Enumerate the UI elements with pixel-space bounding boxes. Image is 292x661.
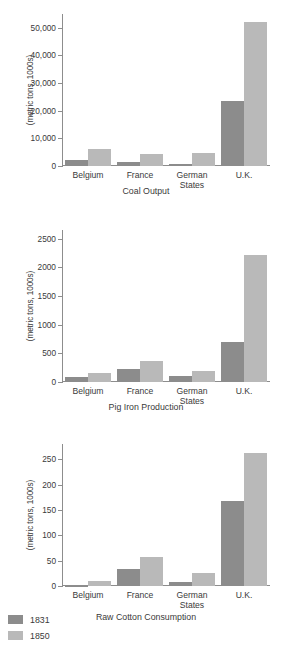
bar-belgium-1831 (65, 160, 88, 166)
bar-u-k-1850 (244, 255, 267, 382)
bar-german-states-1831 (169, 582, 192, 586)
x-axis-label-u-k: U.K. (236, 590, 253, 600)
y-axis-tick-label: 10,000 (31, 133, 56, 143)
y-axis-tick (58, 239, 63, 240)
bar-belgium-1831 (65, 586, 88, 587)
bar-german-states-1831 (169, 376, 192, 382)
three-bar-charts-figure: (metric tons, 1000s)010,00020,00030,0004… (0, 0, 292, 661)
bar-belgium-1850 (88, 373, 111, 382)
legend-item-1850: 1850 (8, 629, 50, 642)
bar-france-1831 (117, 162, 140, 166)
bar-belgium-1850 (88, 149, 111, 166)
y-axis-tick-label: 2000 (38, 262, 56, 272)
y-axis-tick-label: 0 (51, 581, 56, 591)
plot-area: 05001000150020002500BelgiumFranceGerman … (62, 230, 270, 382)
y-axis-tick (58, 382, 63, 383)
bar-german-states-1850 (192, 153, 215, 166)
bar-u-k-1831 (221, 101, 244, 166)
y-axis-tick-label: 30,000 (31, 78, 56, 88)
bar-u-k-1831 (221, 342, 244, 382)
y-axis-tick-label: 0 (51, 377, 56, 387)
y-axis-tick-label: 2500 (38, 234, 56, 244)
legend-label-1850: 1850 (30, 631, 50, 641)
legend-label-1831: 1831 (30, 615, 50, 625)
plot-area: 050100150200250BelgiumFranceGerman State… (62, 444, 270, 586)
bar-france-1831 (117, 369, 140, 382)
y-axis-tick-label: 100 (42, 530, 56, 540)
bar-france-1850 (140, 361, 163, 383)
y-axis-tick (58, 459, 63, 460)
y-axis-tick (58, 561, 63, 562)
y-axis-tick-label: 1500 (38, 291, 56, 301)
bar-belgium-1850 (88, 581, 111, 586)
y-axis-tick (58, 111, 63, 112)
y-axis-tick (58, 296, 63, 297)
x-axis-label-u-k: U.K. (236, 170, 253, 180)
bar-u-k-1850 (244, 453, 267, 586)
y-axis-tick (58, 267, 63, 268)
y-axis-tick-label: 250 (42, 454, 56, 464)
y-axis-title: (metric tons, 1000s) (26, 444, 35, 586)
legend-swatch-1831 (8, 615, 23, 624)
y-axis-tick (58, 166, 63, 167)
chart-panel-pig-iron-production: (metric tons, 1000s)05001000150020002500… (0, 216, 292, 432)
y-axis-tick-label: 200 (42, 480, 56, 490)
bar-u-k-1850 (244, 22, 267, 166)
x-axis-label-u-k: U.K. (236, 386, 253, 396)
legend-swatch-1850 (8, 631, 23, 640)
x-axis-label-german-states: German States (176, 590, 207, 610)
x-axis-label-belgium: Belgium (72, 590, 103, 600)
chart-panel-coal-output: (metric tons, 1000s)010,00020,00030,0004… (0, 0, 292, 216)
x-axis-label-france: France (127, 590, 154, 600)
bar-u-k-1831 (221, 501, 244, 586)
y-axis-line (62, 444, 63, 586)
x-axis-label-france: France (127, 386, 154, 396)
y-axis-line (62, 14, 63, 166)
y-axis-tick-label: 50,000 (31, 23, 56, 33)
bar-german-states-1850 (192, 573, 215, 586)
y-axis-tick (58, 353, 63, 354)
chart-title: Pig Iron Production (0, 402, 292, 412)
y-axis-tick (58, 485, 63, 486)
bar-belgium-1831 (65, 377, 88, 382)
y-axis-tick (58, 510, 63, 511)
y-axis-tick (58, 138, 63, 139)
x-axis-label-belgium: Belgium (72, 170, 103, 180)
bar-france-1850 (140, 557, 163, 586)
y-axis-tick (58, 586, 63, 587)
chart-panel-raw-cotton-consumption: (metric tons, 1000s)050100150200250Belgi… (0, 432, 292, 632)
x-axis-label-belgium: Belgium (72, 386, 103, 396)
bar-german-states-1831 (169, 164, 192, 166)
y-axis-tick (58, 83, 63, 84)
y-axis-title: (metric tons, 1000s) (26, 230, 35, 382)
y-axis-tick-label: 500 (42, 348, 56, 358)
legend-item-1831: 1831 (8, 613, 50, 626)
legend: 1831 1850 (8, 613, 50, 645)
y-axis-tick-label: 50 (47, 556, 56, 566)
y-axis-tick (58, 325, 63, 326)
y-axis-tick-label: 1000 (38, 320, 56, 330)
bar-france-1850 (140, 154, 163, 166)
y-axis-tick-label: 0 (51, 161, 56, 171)
y-axis-tick-label: 150 (42, 505, 56, 515)
y-axis-tick-label: 20,000 (31, 106, 56, 116)
y-axis-tick (58, 535, 63, 536)
y-axis-line (62, 230, 63, 382)
y-axis-tick (58, 28, 63, 29)
x-axis-label-france: France (127, 170, 154, 180)
y-axis-tick-label: 40,000 (31, 50, 56, 60)
y-axis-tick (58, 55, 63, 56)
bar-german-states-1850 (192, 371, 215, 382)
bar-france-1831 (117, 569, 140, 586)
chart-title: Coal Output (0, 186, 292, 196)
plot-area: 010,00020,00030,00040,00050,000BelgiumFr… (62, 14, 270, 166)
